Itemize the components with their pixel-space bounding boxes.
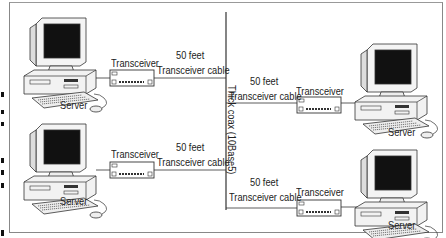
cable-label: Transceiver cable [229,191,302,203]
cable-label: Transceiver cable [157,156,230,168]
server-label: Server [388,219,415,231]
transceiver-top-right-icon [297,97,341,113]
transceiver-label: Transceiver [296,85,344,97]
transceiver-label: Transceiver [296,186,344,198]
server-top-left-icon [24,18,107,112]
cable-label: Transceiver cable [157,64,230,76]
transceiver-bottom-left-icon [110,162,154,178]
transceiver-label: Transceiver [111,57,159,69]
server-label: Server [60,195,87,207]
transceiver-label: Transceiver [111,148,159,160]
transceiver-top-left-icon [110,70,154,86]
server-label: Server [60,99,87,111]
cable-length-label: 50 feet [250,75,278,87]
transceiver-bottom-right-icon [297,200,341,216]
server-top-right-icon [355,44,438,138]
server-label: Server [388,126,415,138]
cable-length-label: 50 feet [250,176,278,188]
cable-length-label: 50 feet [176,49,204,61]
cable-length-label: 50 feet [176,141,204,153]
cable-label: Transceiver cable [229,90,302,102]
